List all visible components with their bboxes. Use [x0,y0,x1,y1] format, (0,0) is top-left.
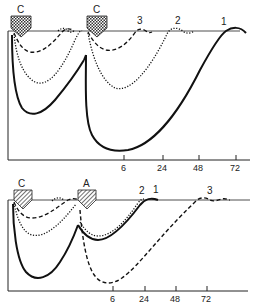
bottom-panel: 6 24 48 72 C A 2 1 3 [8,178,250,304]
diagram-canvas: 6 24 48 72 C C 3 2 1 [0,0,255,308]
top-marker-c-right-label: C [93,4,100,15]
top-curve-label-3: 3 [137,15,143,26]
bottom-curve-label-1: 1 [153,184,159,195]
bottom-x-ticks [113,286,207,291]
top-marker-c-right: C [87,4,107,37]
bottom-tick-6: 6 [110,294,115,304]
bottom-curve-2-wave [52,198,64,201]
top-curve-1-second [86,28,246,151]
bottom-marker-a: A [78,178,96,209]
bottom-curve-label-2: 2 [139,185,145,196]
top-curve-1-first [12,35,84,114]
top-curve-label-1: 1 [221,16,227,27]
top-tick-72: 72 [230,163,240,173]
top-curve-2-second [88,28,194,88]
bottom-marker-c-label: C [18,178,25,189]
bottom-tick-48: 48 [170,294,180,304]
top-tick-48: 48 [193,163,203,173]
top-tick-24: 24 [157,163,167,173]
top-curve-2-first [14,31,82,83]
top-marker-c-left: C [11,4,31,37]
top-panel: 6 24 48 72 C C 3 2 1 [8,4,250,173]
bottom-tick-24: 24 [139,294,149,304]
bottom-curve-3-second [80,198,230,283]
top-curve-2-wave [58,28,75,32]
bottom-marker-a-label: A [83,178,90,189]
top-tick-6: 6 [121,163,126,173]
top-marker-c-left-label: C [17,4,24,15]
bottom-tick-72: 72 [201,294,211,304]
top-curve-label-2: 2 [175,15,181,26]
bottom-curve-label-3: 3 [207,185,213,196]
bottom-marker-c: C [14,178,32,209]
top-x-ticks [124,155,236,160]
